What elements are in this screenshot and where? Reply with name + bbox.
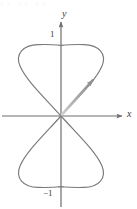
x-axis-label: x <box>127 109 131 119</box>
figure-container: x1 x2 x3 <box>0 0 137 209</box>
figure-eight-plot <box>0 0 137 209</box>
direction-arrow <box>62 81 93 115</box>
y-axis-label: y <box>62 9 66 19</box>
y-tick-label-positive-one: 1 <box>50 30 55 39</box>
y-tick-label-negative-one: −1 <box>43 189 53 198</box>
